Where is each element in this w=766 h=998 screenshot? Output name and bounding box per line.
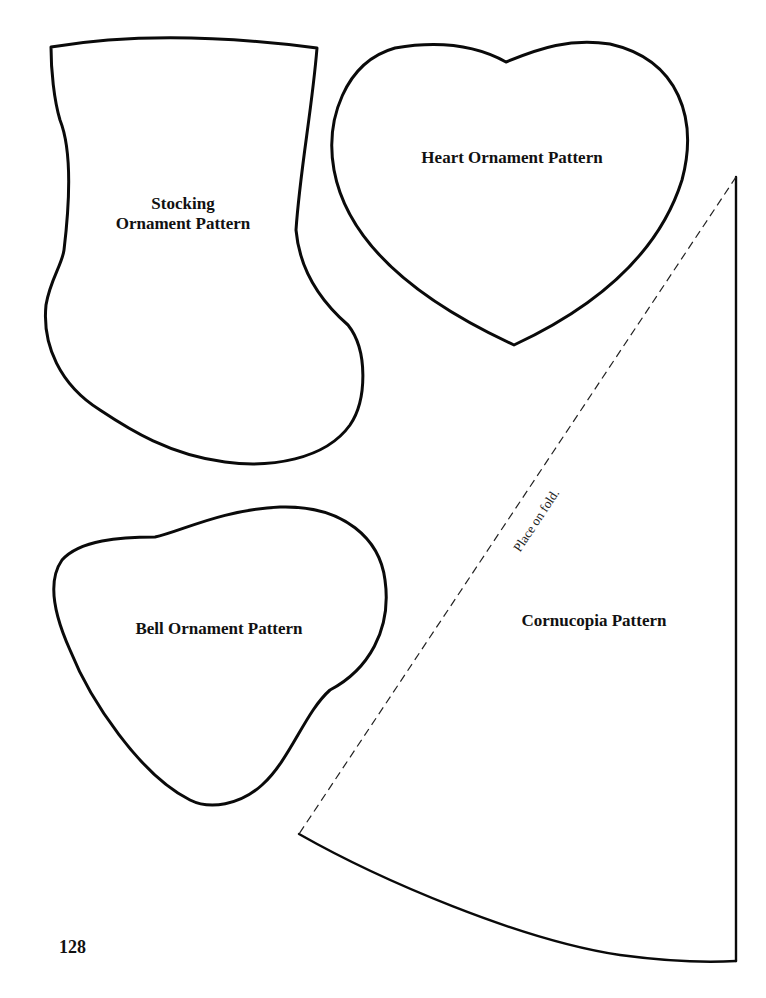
bell-outline (54, 507, 387, 805)
cornucopia-pattern-label: Cornucopia Pattern (505, 611, 683, 631)
pattern-sheet (0, 0, 766, 998)
stocking-outline (45, 38, 362, 464)
stocking-pattern-label: Stocking Ornament Pattern (100, 194, 266, 234)
bell-pattern-label: Bell Ornament Pattern (114, 619, 324, 639)
stocking-label-line2: Ornament Pattern (100, 214, 266, 234)
page-number: 128 (59, 937, 86, 958)
heart-pattern-label: Heart Ornament Pattern (400, 148, 624, 168)
stocking-label-line1: Stocking (100, 194, 266, 214)
cornucopia-fold-line (299, 177, 736, 834)
cornucopia-bottom-curve (299, 834, 736, 962)
heart-outline (332, 42, 688, 345)
